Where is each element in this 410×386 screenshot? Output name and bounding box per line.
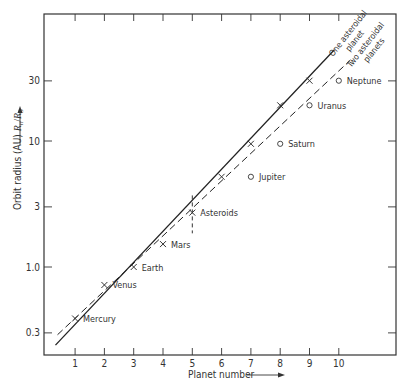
x-axis-arrow-icon <box>278 373 285 378</box>
planet-label-earth: Earth <box>142 263 164 273</box>
y-axis-label-math: R <box>12 125 23 132</box>
circle-marker-icon <box>278 141 283 146</box>
x-tick-label: 5 <box>189 358 195 369</box>
x-marker-icon <box>248 141 254 147</box>
chart: 12345678910 0.31.031030 MercuryVenusEart… <box>0 0 410 386</box>
x-tick-label: 2 <box>102 358 108 369</box>
x-tick-label: 10 <box>333 358 345 369</box>
planet-label-mercury: Mercury <box>83 314 116 324</box>
x-tick-label: 4 <box>160 358 166 369</box>
x-axis-label-text: Planet number <box>188 369 254 380</box>
one-asteroidal-planet-line <box>55 50 334 345</box>
y-tick-label: 30 <box>29 75 41 86</box>
x-marker-icon <box>160 241 166 247</box>
y-axis-label: Orbit radius (AU) Rn/R3 <box>12 109 25 210</box>
y-axis-label-text: Orbit radius (AU) <box>12 131 23 210</box>
two-asteroidal-planets-line <box>58 60 351 335</box>
x-marker-icon <box>131 264 137 270</box>
y-tick-label: 10 <box>29 136 41 147</box>
x-tick-label: 1 <box>72 358 78 369</box>
y-tick-label: 1.0 <box>26 262 41 273</box>
circle-marker-icon <box>307 103 312 108</box>
circle-marker-icon <box>336 78 341 83</box>
planet-label-jupiter: Jupiter <box>258 172 286 182</box>
x-tick-label: 8 <box>277 358 283 369</box>
planet-label-saturn: Saturn <box>288 139 315 149</box>
x-axis-label: Planet number <box>188 369 285 380</box>
x-tick-label: 3 <box>131 358 137 369</box>
svg-text:Orbit radius (AU) Rn/R3: Orbit radius (AU) Rn/R3 <box>12 109 25 210</box>
x-marker-icon <box>307 78 313 84</box>
y-tick-label: 0.3 <box>26 327 40 338</box>
planet-label-uranus: Uranus <box>318 101 347 111</box>
planet-label-asteroids: Asteroids <box>200 208 238 218</box>
x-marker-icon <box>219 174 225 180</box>
x-tick-label: 9 <box>307 358 313 369</box>
planet-label-neptune: Neptune <box>347 76 382 86</box>
x-marker-icon <box>72 316 78 322</box>
x-marker-icon <box>101 282 107 288</box>
y-tick-label: 3 <box>34 201 40 212</box>
fit-lines <box>55 50 350 345</box>
circle-marker-icon <box>248 174 253 179</box>
planet-label-venus: Venus <box>112 280 136 290</box>
plot-frame <box>44 14 396 355</box>
planet-label-mars: Mars <box>171 240 191 250</box>
x-tick-label: 7 <box>248 358 254 369</box>
series-annotations: One asteroidal planet Two asteroidal pla… <box>327 6 396 76</box>
x-tick-label: 6 <box>219 358 225 369</box>
y-axis-ticks: 0.31.031030 <box>26 75 396 338</box>
point-labels: MercuryVenusEarthMarsAsteroidsJupiterSat… <box>83 76 381 324</box>
